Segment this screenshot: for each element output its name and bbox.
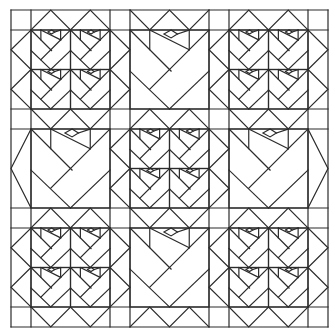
rose-line	[100, 228, 110, 238]
rose-motif	[170, 129, 210, 169]
rose-line	[259, 228, 269, 238]
rose-line	[288, 51, 308, 70]
rose-motif	[31, 30, 71, 70]
rose-line	[288, 249, 308, 268]
sashing-zigzag	[209, 228, 229, 307]
sashing-zigzag	[130, 10, 209, 30]
rose-motif	[71, 70, 111, 110]
rose-motif	[229, 268, 269, 308]
rose-line	[249, 51, 269, 70]
rose-motif	[170, 169, 210, 209]
rose-line	[229, 129, 270, 170]
rose-motif	[229, 30, 269, 70]
sashing-zigzag	[31, 307, 110, 327]
rose-bud	[263, 129, 276, 137]
rose-line	[90, 288, 110, 307]
rose-motif	[31, 129, 110, 208]
rose-line	[51, 249, 71, 268]
rose-line	[150, 228, 190, 248]
rose-line	[61, 30, 71, 40]
sashing-zigzag	[31, 109, 110, 129]
rose-line	[170, 71, 210, 109]
rose-motif	[269, 268, 309, 308]
rose-line	[298, 30, 308, 40]
rose-line	[298, 228, 308, 238]
rose-line	[189, 228, 209, 248]
rose-motif	[71, 228, 111, 268]
rose-line	[199, 169, 209, 179]
rose-line	[51, 288, 71, 307]
rose-motif	[269, 70, 309, 110]
rose-line	[130, 228, 171, 269]
rose-line	[298, 268, 308, 278]
rose-line	[288, 129, 308, 149]
sashing-zigzag	[31, 208, 110, 228]
sashing-zigzag	[209, 129, 229, 208]
rose-line	[51, 129, 91, 149]
rose-line	[61, 268, 71, 278]
rose-motif	[31, 268, 71, 308]
rose-line	[150, 150, 170, 169]
rose-bud	[164, 228, 177, 236]
rose-blocks	[31, 30, 308, 307]
rose-line	[150, 189, 170, 208]
rose-line	[90, 129, 110, 149]
rose-line	[259, 70, 269, 80]
rose-motif	[229, 129, 308, 208]
rose-motif	[71, 268, 111, 308]
rose-line	[31, 129, 72, 170]
rose-motif	[229, 70, 269, 110]
sashing-zigzag	[11, 228, 31, 307]
sashing-zigzag	[229, 10, 308, 30]
sashing-zigzag	[110, 30, 130, 109]
rose-motif	[229, 228, 269, 268]
rose-motif	[31, 70, 71, 110]
rose-line	[90, 249, 110, 268]
quilt-pattern-drawing	[0, 0, 335, 333]
rose-line	[71, 170, 111, 208]
sashing-zigzag	[11, 30, 31, 109]
sashing-zigzag	[130, 109, 209, 129]
rose-line	[100, 70, 110, 80]
rose-line	[51, 51, 71, 70]
sashing-zigzag	[130, 307, 209, 327]
rose-line	[249, 249, 269, 268]
rose-motif	[269, 30, 309, 70]
sashing-zigzag	[31, 10, 110, 30]
rose-motif	[130, 169, 170, 209]
rose-motif	[130, 30, 209, 109]
rose-line	[100, 30, 110, 40]
rose-bud	[164, 30, 177, 38]
rose-bud	[65, 129, 78, 137]
rose-motif	[130, 129, 170, 169]
sashing-zigzag	[209, 30, 229, 109]
rose-line	[259, 268, 269, 278]
rose-motif	[71, 30, 111, 70]
rose-line	[199, 129, 209, 139]
sashing-zigzag	[110, 228, 130, 307]
rose-line	[51, 90, 71, 109]
sashing-zigzag	[229, 307, 308, 327]
sashing-zigzag	[229, 109, 308, 129]
rose-line	[61, 70, 71, 80]
rose-line	[189, 189, 209, 208]
sashing-zigzag	[130, 208, 209, 228]
rose-line	[150, 30, 190, 50]
rose-line	[160, 129, 170, 139]
rose-line	[249, 90, 269, 109]
rose-line	[189, 150, 209, 169]
rose-line	[100, 268, 110, 278]
rose-line	[90, 90, 110, 109]
rose-motif	[31, 228, 71, 268]
rose-line	[170, 269, 210, 307]
rose-line	[259, 30, 269, 40]
sashing-zigzag	[229, 208, 308, 228]
rose-line	[298, 70, 308, 80]
rose-line	[288, 288, 308, 307]
sashing-zigzag	[11, 129, 31, 208]
rose-line	[160, 169, 170, 179]
rose-line	[90, 51, 110, 70]
sashing-zigzag	[308, 228, 328, 307]
rose-line	[249, 288, 269, 307]
rose-motif	[130, 228, 209, 307]
